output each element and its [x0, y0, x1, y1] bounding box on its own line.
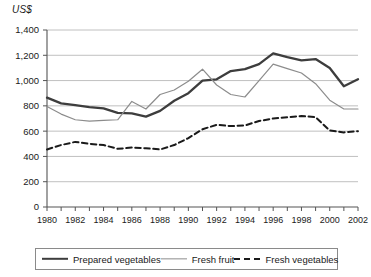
y-axis-ticks: 02004006008001,0001,2001,400	[15, 24, 47, 212]
chart-figure: US$ 02004006008001,0001,2001,400 1980198…	[0, 0, 371, 277]
chart-svg: 02004006008001,0001,2001,400 19801982198…	[0, 0, 371, 240]
x-tick-label: 1988	[150, 215, 170, 225]
x-tick-label: 1996	[263, 215, 283, 225]
y-tick-label: 600	[23, 126, 39, 137]
x-tick-label: 2000	[320, 215, 340, 225]
x-tick-label: 1990	[178, 215, 198, 225]
series-lines	[47, 53, 358, 149]
series-line	[47, 53, 358, 116]
x-tick-label: 1986	[122, 215, 142, 225]
plot-area: 02004006008001,0001,2001,400 19801982198…	[0, 0, 371, 240]
x-tick-label: 1992	[207, 215, 227, 225]
y-tick-label: 0	[34, 201, 39, 212]
x-tick-label: 1994	[235, 215, 255, 225]
legend-swatch-dashed-line-icon	[234, 255, 260, 264]
y-tick-label: 1,200	[15, 50, 39, 61]
legend-item-fresh-vegetables: Fresh vegetables	[234, 254, 338, 265]
chart-legend: Prepared vegetables Fresh fruit Fresh ve…	[35, 248, 338, 270]
gridlines	[47, 30, 358, 182]
y-tick-label: 800	[23, 100, 39, 111]
y-tick-label: 1,400	[15, 24, 39, 35]
y-tick-label: 1,000	[15, 75, 39, 86]
legend-label: Fresh fruit	[192, 254, 235, 265]
x-tick-label: 2002	[348, 215, 368, 225]
x-axis-labels: 1980198219841986198819901992199419961998…	[37, 215, 368, 225]
y-tick-label: 200	[23, 176, 39, 187]
legend-label: Prepared vegetables	[73, 254, 161, 265]
x-tick-label: 1998	[291, 215, 311, 225]
legend-swatch-line-icon	[42, 255, 68, 264]
series-line	[47, 64, 358, 121]
x-tick-label: 1984	[94, 215, 114, 225]
legend-item-fresh-fruit: Fresh fruit	[161, 254, 235, 265]
legend-item-prepared-vegetables: Prepared vegetables	[42, 254, 161, 265]
x-axis-ticks	[47, 207, 358, 211]
x-tick-label: 1980	[37, 215, 57, 225]
y-tick-label: 400	[23, 151, 39, 162]
legend-label: Fresh vegetables	[265, 254, 338, 265]
x-tick-label: 1982	[65, 215, 85, 225]
legend-swatch-line-icon	[161, 255, 187, 264]
